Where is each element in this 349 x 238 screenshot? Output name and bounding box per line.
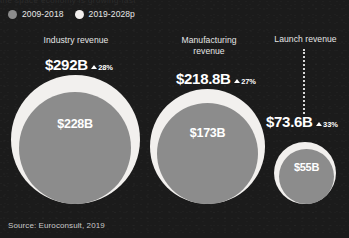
inner-value-launch-revenue: $55B bbox=[294, 161, 319, 173]
outer-value-manufacturing-revenue: $218.8B 27% bbox=[176, 70, 256, 87]
outer-value-launch-revenue: $73.6B 33% bbox=[266, 113, 338, 130]
group-title-manufacturing-revenue: Manufacturing revenue bbox=[159, 35, 259, 56]
bubble-group-launch-revenue: Launch revenue $73.6B 33% $55B bbox=[262, 0, 349, 238]
leader-line-launch-revenue bbox=[303, 49, 305, 114]
group-title-industry-revenue: Industry revenue bbox=[16, 35, 136, 46]
source-attribution: Source: Euroconsult, 2019 bbox=[8, 221, 105, 230]
outer-amount-launch-revenue: $73.6B bbox=[266, 113, 313, 130]
bubble-group-industry-revenue: Industry revenue $292B 28% $228B bbox=[0, 0, 160, 238]
growth-badge-industry-revenue: 28% bbox=[91, 63, 113, 72]
triangle-up-icon bbox=[316, 122, 322, 126]
growth-pct-manufacturing-revenue: 27% bbox=[241, 77, 256, 86]
growth-badge-launch-revenue: 33% bbox=[316, 120, 338, 129]
inner-value-manufacturing-revenue: $173B bbox=[190, 126, 225, 140]
outer-value-industry-revenue: $292B 28% bbox=[45, 56, 113, 73]
growth-pct-industry-revenue: 28% bbox=[98, 63, 113, 72]
bubble-inner-launch-revenue: $55B bbox=[279, 149, 334, 204]
inner-value-industry-revenue: $228B bbox=[57, 117, 92, 131]
triangle-up-icon bbox=[234, 79, 240, 83]
bubble-inner-manufacturing-revenue: $173B bbox=[157, 103, 258, 204]
bubble-chart-figure: the space economy is growing fast 2009-2… bbox=[0, 0, 349, 238]
outer-amount-industry-revenue: $292B bbox=[45, 56, 88, 73]
growth-badge-manufacturing-revenue: 27% bbox=[234, 77, 256, 86]
triangle-up-icon bbox=[91, 65, 97, 69]
group-title-launch-revenue: Launch revenue bbox=[262, 34, 349, 45]
bubble-inner-industry-revenue: $228B bbox=[19, 92, 131, 204]
bubble-group-manufacturing-revenue: Manufacturing revenue $218.8B 27% $173B bbox=[148, 0, 270, 238]
growth-pct-launch-revenue: 33% bbox=[323, 120, 338, 129]
outer-amount-manufacturing-revenue: $218.8B bbox=[176, 70, 231, 87]
